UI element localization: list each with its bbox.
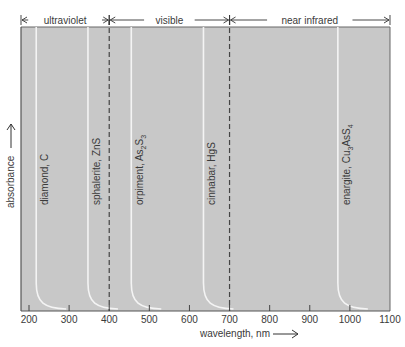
x-tick-label: 1100 <box>379 314 401 325</box>
region-label: near infrared <box>281 15 338 26</box>
x-tick-label: 1000 <box>339 314 362 325</box>
curve-label-cinnabar: cinnabar, HgS <box>206 142 217 205</box>
x-tick-label: 900 <box>301 314 318 325</box>
y-axis-label: absorbance <box>5 124 16 208</box>
y-axis-arrow-icon <box>7 124 15 148</box>
region-label: ultraviolet <box>44 15 87 26</box>
region-ultraviolet: ultraviolet <box>21 15 109 26</box>
region-header: ultravioletvisiblenear infrared <box>21 15 390 26</box>
x-tick-label: 600 <box>181 314 198 325</box>
x-tick-label: 300 <box>61 314 78 325</box>
curve-label-sphalerite: sphalerite, ZnS <box>91 137 102 205</box>
x-axis-label: wavelength, nm <box>199 328 298 339</box>
x-tick-label: 200 <box>21 314 38 325</box>
absorbance-chart: ultravioletvisiblenear infrared diamond,… <box>0 0 405 347</box>
curve-label-diamond: diamond, C <box>39 154 50 205</box>
y-axis-title: absorbance <box>5 155 16 208</box>
x-tick-label: 500 <box>141 314 158 325</box>
x-tick-label: 800 <box>261 314 278 325</box>
region-near-infrared: near infrared <box>230 15 390 26</box>
x-tick-label: 700 <box>221 314 238 325</box>
x-tick-label: 400 <box>101 314 118 325</box>
x-axis-title: wavelength, nm <box>199 328 270 339</box>
x-axis-arrow-icon <box>273 330 298 338</box>
region-label: visible <box>155 15 183 26</box>
region-visible: visible <box>109 15 229 26</box>
